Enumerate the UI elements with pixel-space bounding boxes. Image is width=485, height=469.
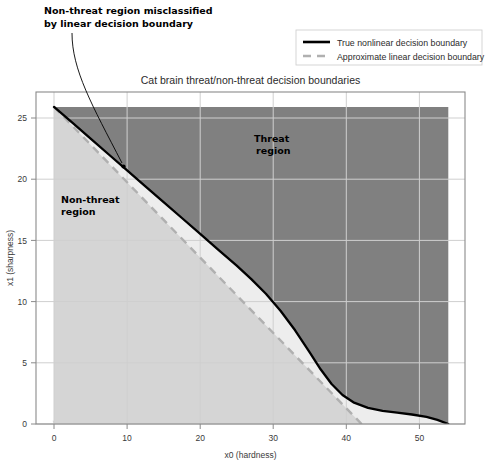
legend: True nonlinear decision boundary Approxi… <box>296 30 485 65</box>
xtick-label-10: 10 <box>122 433 132 443</box>
annotation-text-line2: by linear decision boundary <box>44 18 194 29</box>
chart-title: Cat brain threat/non-threat decision bou… <box>141 74 360 86</box>
annotation-point-marker <box>121 164 125 168</box>
regions-group <box>53 107 449 424</box>
ytick-label-25: 25 <box>18 113 28 123</box>
xtick-label-20: 20 <box>195 433 205 443</box>
chart-figure: Threat region Non-threat region Non-thre… <box>0 0 485 469</box>
y-axis-label: x1 (sharpness) <box>5 230 15 286</box>
x-axis-label: x0 (hardness) <box>225 450 277 460</box>
non-threat-region-label-line2: region <box>61 206 96 217</box>
ytick-label-5: 5 <box>22 358 27 368</box>
threat-region-label-line2: region <box>256 145 291 156</box>
annotation-text-line1: Non-threat region misclassified <box>44 5 213 16</box>
chart-svg: Threat region Non-threat region Non-thre… <box>0 0 485 469</box>
legend-label-approximate-linear: Approximate linear decision boundary <box>337 52 485 62</box>
non-threat-region-label-line1: Non-threat <box>61 194 120 205</box>
ytick-label-15: 15 <box>18 236 28 246</box>
xtick-label-30: 30 <box>268 433 278 443</box>
xtick-label-50: 50 <box>415 433 425 443</box>
xtick-label-0: 0 <box>52 433 57 443</box>
ytick-label-20: 20 <box>18 174 28 184</box>
xtick-label-40: 40 <box>342 433 352 443</box>
ytick-label-10: 10 <box>18 297 28 307</box>
threat-region-label-line1: Threat <box>254 133 290 144</box>
legend-label-true-nonlinear: True nonlinear decision boundary <box>337 38 468 48</box>
ytick-label-0: 0 <box>22 419 27 429</box>
